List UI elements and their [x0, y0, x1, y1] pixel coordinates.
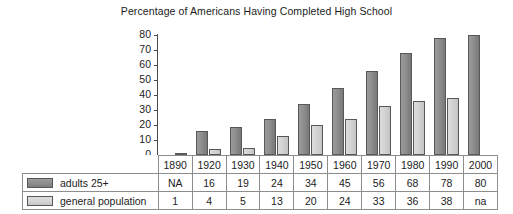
- y-axis-tick-label: 20: [139, 118, 151, 131]
- y-axis-tick-label: 40: [139, 88, 151, 101]
- table-row-general-population: general population 145132024333638na: [23, 192, 498, 210]
- table-cell-value: 13: [260, 192, 294, 210]
- bar-general-population: [447, 98, 459, 155]
- table-year-header-1940: 1940: [260, 156, 294, 174]
- table-cell-value: 80: [464, 174, 498, 192]
- bar-group: [192, 35, 226, 155]
- y-axis-tick-label: 50: [139, 73, 151, 86]
- table-year-header-1980: 1980: [396, 156, 430, 174]
- table-year-header-1990: 1990: [430, 156, 464, 174]
- table-cell-value: NA: [158, 174, 192, 192]
- bar-general-population: [311, 125, 323, 155]
- bar-general-population: [413, 101, 425, 155]
- bar-group: [430, 35, 464, 155]
- bar-general-population: [277, 136, 289, 156]
- table-year-header-2000: 2000: [464, 156, 498, 174]
- bar-adults: [264, 119, 276, 155]
- table-year-header-1920: 1920: [192, 156, 226, 174]
- bar-adults: [434, 38, 446, 155]
- legend-swatch-adults-icon: [27, 178, 53, 188]
- table-cell-value: 20: [294, 192, 328, 210]
- y-axis-tick-label: 10: [139, 133, 151, 146]
- bar-group: [464, 35, 498, 155]
- table-year-header-1890: 1890: [158, 156, 192, 174]
- bar-group: [396, 35, 430, 155]
- legend-swatch-general-population-icon: [27, 196, 53, 206]
- table-cell-value: 4: [192, 192, 226, 210]
- table-year-header-1960: 1960: [328, 156, 362, 174]
- table-cell-value: 56: [362, 174, 396, 192]
- y-axis-tick-label: 30: [139, 103, 151, 116]
- legend-label-general-population: general population: [60, 195, 146, 207]
- chart-page: Percentage of Americans Having Completed…: [0, 0, 513, 214]
- table-cell-value: 19: [226, 174, 260, 192]
- table-cell-value: 45: [328, 174, 362, 192]
- y-axis-tick-label: 70: [139, 43, 151, 56]
- bar-adults: [196, 131, 208, 155]
- bar-adults: [298, 104, 310, 155]
- bar-adults: [230, 127, 242, 156]
- table-corner-cell: [23, 156, 159, 174]
- table-cell-value: 1: [158, 192, 192, 210]
- table-header-row: 1890192019301940195019601970198019902000: [23, 156, 498, 174]
- table-cell-value: 78: [430, 174, 464, 192]
- table-cell-value: 68: [396, 174, 430, 192]
- bar-group: [328, 35, 362, 155]
- table-year-header-1950: 1950: [294, 156, 328, 174]
- y-axis-tick-label: 60: [139, 58, 151, 71]
- bar-group: [226, 35, 260, 155]
- legend-cell-general-population: general population: [23, 192, 159, 210]
- bar-group: [260, 35, 294, 155]
- chart-title: Percentage of Americans Having Completed…: [0, 5, 513, 17]
- bar-adults: [400, 53, 412, 155]
- bar-group: [158, 35, 192, 155]
- table-row-adults: adults 25+ NA161924344556687880: [23, 174, 498, 192]
- table-cell-value: 24: [260, 174, 294, 192]
- bar-general-population: [243, 148, 255, 156]
- bar-general-population: [379, 106, 391, 156]
- legend-cell-adults: adults 25+: [23, 174, 159, 192]
- table-year-header-1970: 1970: [362, 156, 396, 174]
- bar-adults: [332, 88, 344, 156]
- bar-adults: [468, 35, 480, 155]
- bar-general-population: [345, 119, 357, 155]
- bar-adults: [366, 71, 378, 155]
- table-cell-value: 24: [328, 192, 362, 210]
- table-cell-value: 5: [226, 192, 260, 210]
- table-cell-value: 33: [362, 192, 396, 210]
- table-year-header-1930: 1930: [226, 156, 260, 174]
- bar-group: [362, 35, 396, 155]
- table-cell-value: 16: [192, 174, 226, 192]
- legend-label-adults: adults 25+: [60, 177, 109, 189]
- data-table: 1890192019301940195019601970198019902000…: [22, 155, 498, 210]
- table-cell-value: 38: [430, 192, 464, 210]
- table-cell-value: 36: [396, 192, 430, 210]
- table-cell-value: 34: [294, 174, 328, 192]
- bar-group: [294, 35, 328, 155]
- y-axis-tick-label: 80: [139, 28, 151, 41]
- table-cell-value: na: [464, 192, 498, 210]
- plot-area: 01020304050607080: [158, 35, 498, 155]
